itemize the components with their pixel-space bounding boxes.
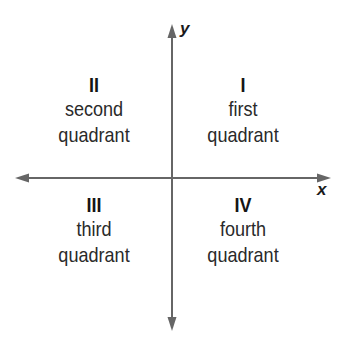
x-axis-label: x [317,180,326,200]
quadrant-second: II second quadrant [29,74,159,148]
quadrant-third: III third quadrant [29,194,159,268]
quadrant-numeral: IV [185,194,302,216]
quadrant-word: quadrant [187,122,299,148]
quadrant-numeral: III [36,194,153,216]
quadrant-first: I first quadrant [178,74,308,148]
y-axis-up-arrow-icon [168,24,177,38]
quadrant-name: first [187,96,299,122]
coordinate-axes [0,0,347,348]
y-axis-down-arrow-icon [168,317,177,331]
quadrant-word: quadrant [38,122,150,148]
quadrant-name: second [38,96,150,122]
x-axis-left-arrow-icon [15,174,29,183]
quadrant-name: fourth [187,216,299,242]
quadrant-name: third [38,216,150,242]
quadrant-word: quadrant [38,242,150,268]
quadrant-numeral: I [185,74,302,96]
y-axis-label: y [180,19,189,39]
quadrant-numeral: II [36,74,153,96]
quadrant-fourth: IV fourth quadrant [178,194,308,268]
quadrant-word: quadrant [187,242,299,268]
